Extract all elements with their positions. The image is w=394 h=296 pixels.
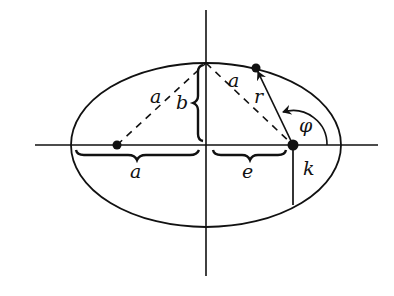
label-e: e — [242, 160, 253, 182]
brace-a — [76, 150, 199, 160]
brace-b — [193, 65, 203, 141]
label-r: r — [254, 85, 265, 107]
label-a-dashed-right: a — [228, 69, 239, 91]
label-k: k — [303, 157, 315, 179]
label-phi: φ — [299, 114, 313, 136]
point-on-ellipse — [252, 64, 261, 73]
label-b: b — [176, 91, 188, 113]
right-focus — [288, 140, 299, 151]
ellipse-diagram: a b a r φ a e k — [0, 0, 394, 296]
label-a-semi-major: a — [130, 160, 141, 182]
dashed-line-top-to-focus — [206, 63, 293, 145]
brace-e — [213, 150, 286, 160]
radius-vector-r — [258, 72, 293, 145]
left-focus — [113, 141, 122, 150]
label-a-dashed-left: a — [150, 85, 161, 107]
